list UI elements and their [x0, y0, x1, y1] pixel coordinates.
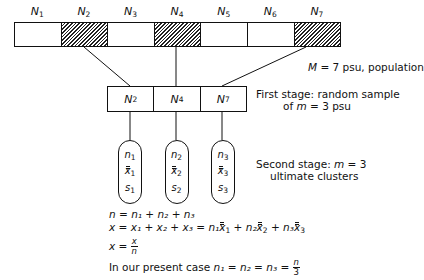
cluster-capsule: n1x1s1	[118, 140, 142, 204]
psu-cell	[294, 22, 342, 47]
caption-var: M	[308, 61, 317, 73]
sampled-psu-cell: N7	[200, 86, 247, 112]
psu-label: N1	[14, 5, 61, 19]
psu-cell	[200, 22, 248, 47]
formula-total-n: n = n₁ + n₂ + n₃	[109, 208, 305, 221]
second-stage-caption: Second stage: m = 3 ultimate clusters	[256, 158, 366, 182]
psu-cell	[154, 22, 202, 47]
caption-rest: = 7 psu, population	[317, 61, 424, 73]
formula-total-x: x = x₁ + x₂ + x₃ = n₁x1 + n₂x2 + n₃x3	[109, 221, 305, 237]
sampled-psu-cell: N4	[153, 86, 200, 112]
cluster-capsule: n3x3s3	[211, 140, 235, 204]
psu-cell	[14, 22, 62, 47]
formula-mean: x = xn	[109, 237, 305, 256]
psu-label: N5	[200, 5, 247, 19]
sampled-psu-cell: N2	[107, 86, 154, 112]
psu-label: N4	[154, 5, 201, 19]
psu-label: N3	[107, 5, 154, 19]
population-caption: M = 7 psu, population	[308, 61, 424, 73]
formula-present-case: In our present case n₁ = n₂ = n₃ = n3	[109, 258, 305, 277]
first-stage-caption-line2: of m = 3 psu	[256, 100, 400, 112]
formula-block: n = n₁ + n₂ + n₃ x = x₁ + x₂ + x₃ = n₁x1…	[109, 208, 305, 277]
psu-cell	[247, 22, 295, 47]
first-stage-caption: First stage: random sample of m = 3 psu	[256, 88, 400, 112]
psu-label: N2	[61, 5, 108, 19]
psu-label: N6	[247, 5, 294, 19]
psu-cell	[61, 22, 109, 47]
psu-cell	[107, 22, 155, 47]
second-stage-caption-line1: Second stage: m = 3	[256, 158, 366, 170]
cluster-capsule: n2x2s2	[165, 140, 189, 204]
psu-label: N7	[294, 5, 341, 19]
first-stage-caption-line1: First stage: random sample	[256, 88, 400, 100]
second-stage-caption-line2: ultimate clusters	[256, 170, 366, 182]
